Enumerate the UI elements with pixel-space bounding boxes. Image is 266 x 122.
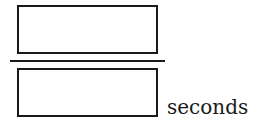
denominator-input[interactable] <box>17 68 158 117</box>
fraction-bar <box>10 60 165 62</box>
numerator-input[interactable] <box>17 5 158 54</box>
unit-label: seconds <box>167 96 248 118</box>
